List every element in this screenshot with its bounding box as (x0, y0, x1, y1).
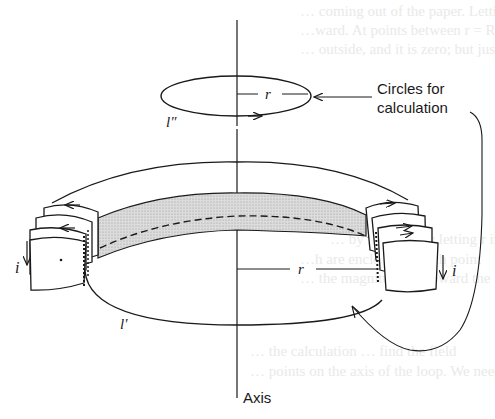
large-circle-label: l′ (120, 316, 128, 332)
small-calculation-circle (161, 76, 311, 116)
small-circle-label: l″ (166, 114, 177, 130)
toroid-diagram: Axis r l″ Circles for calculation l′ r (0, 0, 495, 419)
callout-label-line2: calculation (377, 99, 448, 116)
large-calculation-circle (85, 271, 382, 325)
right-current-label: i (452, 262, 456, 279)
large-radius-label: r (298, 261, 304, 277)
callout-label-line1: Circles for (377, 80, 445, 97)
small-radius-label: r (265, 86, 271, 102)
left-winding-stack (27, 205, 98, 290)
torus-core-band (98, 193, 366, 258)
right-winding-stack (366, 202, 443, 291)
left-current-label: i (15, 259, 19, 276)
axis-label: Axis (243, 389, 271, 406)
